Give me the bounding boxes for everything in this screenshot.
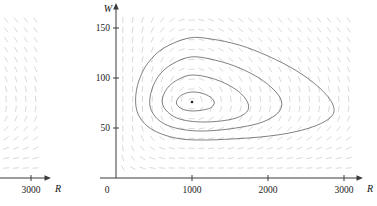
x-tick-label-3000: 3000	[335, 185, 354, 195]
x-axis-label: R	[366, 183, 373, 194]
figure-labels: W R 0 1000 2000 3000 50 100 150 3000 R	[0, 0, 377, 206]
y-tick-label-50: 50	[101, 123, 111, 133]
y-axis-label: W	[104, 3, 114, 14]
figure-canvas: W R 0 1000 2000 3000 50 100 150 3000 R	[0, 0, 377, 206]
x-tick-label-2000: 2000	[259, 185, 278, 195]
y-tick-label-150: 150	[96, 23, 111, 33]
y-tick-label-100: 100	[96, 73, 111, 83]
left-x-axis-label: R	[54, 183, 61, 194]
x-tick-label-1000: 1000	[183, 185, 202, 195]
left-x-tick-label-3000: 3000	[22, 185, 41, 195]
origin-tick-label: 0	[105, 185, 110, 195]
